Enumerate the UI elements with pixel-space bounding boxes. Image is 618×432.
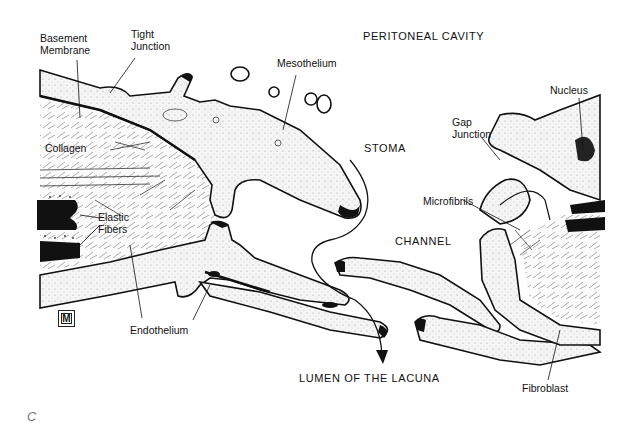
endothelium-label: Endothelium xyxy=(130,324,188,336)
publisher-logo: M xyxy=(58,310,75,327)
channel-label: CHANNEL xyxy=(395,235,452,247)
fibroblast-label: Fibroblast xyxy=(522,382,568,394)
logo-glyph: M xyxy=(61,313,72,324)
collagen-label: Collagen xyxy=(45,142,86,154)
lumen-label: LUMEN OF THE LACUNA xyxy=(299,372,440,384)
microfibrils-label: Microfibrils xyxy=(423,195,473,207)
mesothelium-label: Mesothelium xyxy=(277,57,337,69)
nucleus-label: Nucleus xyxy=(550,84,588,96)
elastic-fibers-left xyxy=(37,195,80,262)
fibroblast-region xyxy=(480,95,605,345)
panel-letter: C xyxy=(27,409,36,424)
peritoneal-cavity-label: PERITONEAL CAVITY xyxy=(363,30,484,42)
stoma-label: STOMA xyxy=(364,142,406,154)
tight-junction-label: Tight Junction xyxy=(131,28,170,52)
basement-membrane-label: Basement Membrane xyxy=(40,32,90,56)
floating-cells xyxy=(231,67,331,113)
elastic-fibers-label: Elastic Fibers xyxy=(98,211,129,235)
gap-junction-label: Gap Junction xyxy=(452,116,491,140)
